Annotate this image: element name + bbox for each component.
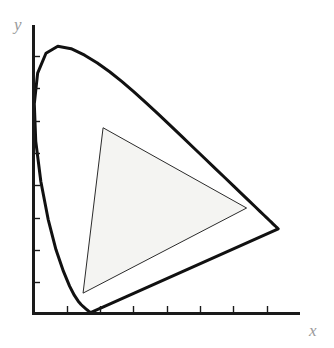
y-axis-label: y — [14, 16, 22, 33]
x-axis-label: x — [309, 322, 317, 339]
gamut-triangle — [83, 128, 247, 293]
chromaticity-plot — [0, 0, 334, 348]
chromaticity-diagram-figure: y x — [0, 0, 334, 348]
